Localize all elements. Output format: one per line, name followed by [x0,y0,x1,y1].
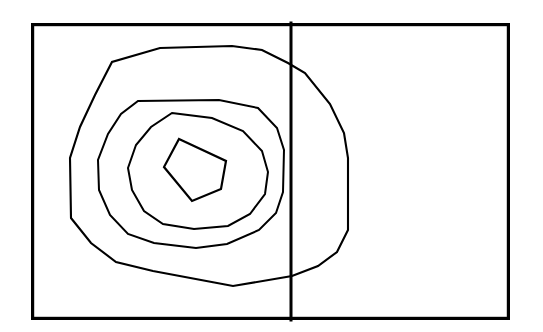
figure-root [0,0,543,332]
figure-background [0,0,543,332]
contour-figure-svg [0,0,543,332]
